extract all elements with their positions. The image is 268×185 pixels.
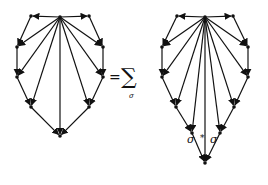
vertex	[58, 15, 62, 19]
spoke-edge	[60, 17, 88, 105]
spoke-edge	[60, 16, 87, 17]
label-sigma-right: σ	[210, 133, 218, 146]
boundary-edge	[176, 107, 191, 131]
vertex	[29, 105, 33, 109]
boundary-edge	[17, 77, 30, 105]
boundary-edge	[221, 107, 234, 131]
spoke-edge	[18, 17, 60, 75]
vertex	[231, 14, 235, 18]
spoke-edge	[163, 17, 205, 75]
vertex	[15, 75, 19, 79]
vertex	[101, 45, 105, 49]
right-graph	[160, 14, 250, 165]
vertex	[29, 14, 33, 18]
spoke-edge	[205, 16, 231, 17]
vertex	[175, 14, 179, 18]
vertex	[160, 45, 164, 49]
boundary-edge	[18, 16, 31, 45]
boundary-edge	[90, 77, 103, 105]
label-star: *	[200, 133, 205, 143]
spoke-edge	[60, 17, 101, 46]
boundary-edge	[31, 107, 59, 135]
vertex	[174, 105, 178, 109]
vertex	[160, 75, 164, 79]
vertex	[203, 161, 207, 165]
boundary-edge	[61, 107, 89, 135]
vertex	[87, 14, 91, 18]
vertex	[15, 45, 19, 49]
left-graph	[15, 14, 105, 138]
sum-index: σ	[129, 92, 134, 100]
spoke-edge	[192, 17, 205, 131]
spoke-edge	[33, 16, 60, 17]
boundary-edge	[89, 16, 102, 45]
vertex	[101, 75, 105, 79]
spoke-edge	[205, 17, 233, 105]
vertex	[203, 15, 207, 19]
label-sigma-left: σ	[187, 133, 195, 146]
vertex	[246, 75, 250, 79]
spoke-edge	[177, 17, 205, 105]
vertex	[218, 131, 222, 135]
boundary-edge	[162, 77, 175, 105]
spoke-edge	[19, 17, 60, 46]
spoke-edge	[60, 17, 102, 75]
spoke-edge	[179, 16, 205, 17]
vertex	[232, 105, 236, 109]
spoke-edge	[32, 17, 60, 105]
diagram-canvas: = ∑ σ σ * σ	[0, 0, 268, 185]
vertex	[246, 45, 250, 49]
vertex	[58, 134, 62, 138]
vertex	[87, 105, 91, 109]
sum-symbol: ∑	[121, 64, 137, 89]
boundary-edge	[235, 77, 248, 105]
equals-sign: =	[109, 69, 121, 85]
